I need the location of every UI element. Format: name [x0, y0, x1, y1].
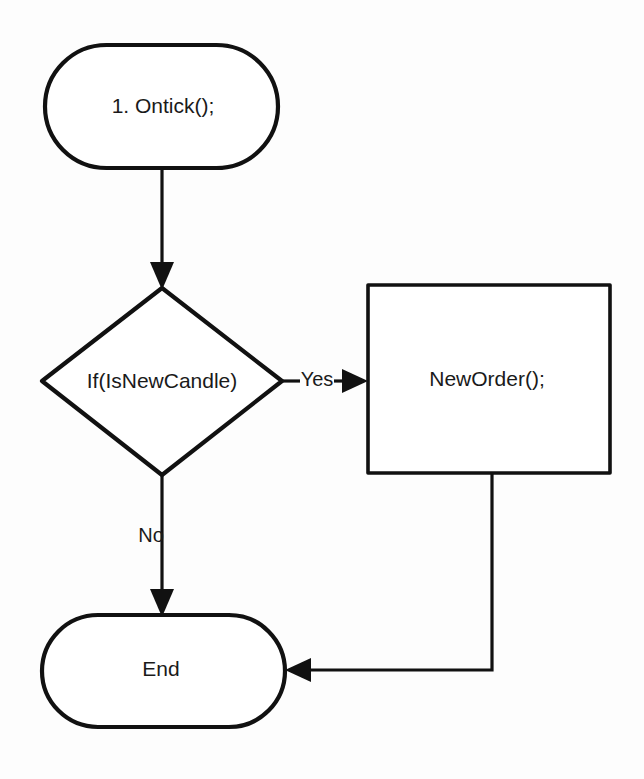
edge-action-to-end-path: [303, 473, 492, 670]
node-decision[interactable]: If(IsNewCandle): [42, 288, 282, 475]
edge-action-to-end: [285, 473, 492, 682]
flowchart-canvas: 1. Ontick(); If(IsNewCandle) NewOrder();…: [0, 0, 644, 779]
node-decision-label: If(IsNewCandle): [87, 369, 238, 392]
arrow-head-icon: [285, 658, 311, 682]
edge-start-to-decision: [150, 168, 174, 290]
node-start-label: 1. Ontick();: [112, 94, 215, 117]
arrow-head-icon: [342, 369, 368, 393]
edge-label-yes: Yes: [301, 368, 334, 390]
node-start[interactable]: 1. Ontick();: [45, 45, 278, 168]
node-end-label: End: [142, 657, 179, 680]
node-action[interactable]: NewOrder();: [368, 285, 610, 473]
node-end[interactable]: End: [42, 615, 285, 727]
arrow-head-icon: [150, 589, 174, 617]
edge-label-no: No: [138, 524, 164, 546]
node-action-label: NewOrder();: [429, 367, 545, 390]
arrow-head-icon: [150, 262, 174, 290]
